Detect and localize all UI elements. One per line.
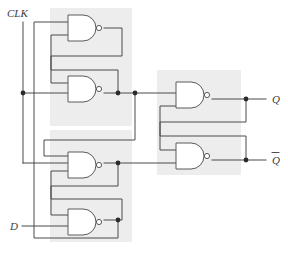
gate-nand-3-body bbox=[68, 152, 96, 178]
circuit-canvas: CLK D Q Q bbox=[0, 0, 288, 253]
gate-nand-1-body bbox=[68, 15, 96, 41]
gate-nand-3-inversion-bubble bbox=[96, 162, 101, 167]
junction-clk-branch-dot bbox=[21, 91, 26, 96]
gate-nand-5-body bbox=[176, 82, 204, 108]
junction-nand2-feed-dot bbox=[133, 91, 138, 96]
junction-nand2-out-dot bbox=[116, 91, 121, 96]
input-label-clk: CLK bbox=[7, 7, 28, 19]
gate-nand-2-body bbox=[68, 76, 96, 102]
output-label-qbar: Q bbox=[272, 154, 280, 166]
output-label-q: Q bbox=[272, 93, 280, 105]
shaded-regions bbox=[50, 8, 241, 242]
input-label-d: D bbox=[9, 220, 18, 232]
junction-nand3-out-dot bbox=[116, 161, 121, 166]
junction-qbar-out-dot bbox=[244, 158, 249, 163]
gate-nand-5-inversion-bubble bbox=[204, 92, 209, 97]
junction-q-out-dot bbox=[244, 97, 249, 102]
gate-nand-1-inversion-bubble bbox=[96, 25, 101, 30]
gate-nand-4-inversion-bubble bbox=[96, 219, 101, 224]
gate-nand-6-inversion-bubble bbox=[204, 153, 209, 158]
gate-nand-6-body bbox=[176, 143, 204, 169]
circuit-diagram: CLK D Q Q bbox=[0, 0, 288, 253]
junction-nand4-out-dot bbox=[116, 218, 121, 223]
gate-nand-2-inversion-bubble bbox=[96, 86, 101, 91]
gate-nand-4-body bbox=[68, 209, 96, 235]
